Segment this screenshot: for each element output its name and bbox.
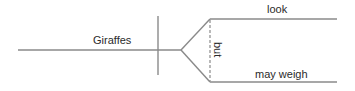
predicate-label-top: look bbox=[267, 3, 288, 15]
predicate-label-bottom: may weigh bbox=[255, 68, 308, 80]
subject-label: Giraffes bbox=[93, 34, 132, 46]
conjunction-label: but bbox=[212, 42, 224, 57]
fork-upper-branch bbox=[181, 19, 210, 50]
fork-lower-branch bbox=[181, 50, 210, 82]
sentence-diagram: Giraffes look may weigh but bbox=[0, 0, 355, 91]
